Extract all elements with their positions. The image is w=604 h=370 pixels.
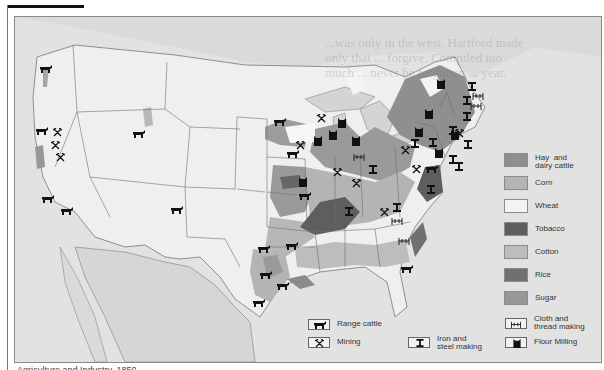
cattle-icon [400, 265, 414, 274]
flour-mill-icon [314, 136, 322, 146]
legend-label: Mining [337, 338, 361, 346]
legend-label: Sugar [535, 294, 556, 302]
mining-icon [401, 146, 410, 155]
cattle-icon [313, 321, 327, 330]
iron-steel-icon [463, 112, 471, 121]
flour-mill-icon [415, 127, 423, 137]
flour-mill-icon [513, 339, 521, 348]
cattle-icon [273, 118, 287, 127]
cattle-icon [41, 195, 55, 204]
legend-label: Hay and dairy cattle [535, 154, 574, 170]
sugar-swatch [504, 291, 528, 305]
cloth-thread-icon [398, 236, 410, 246]
legend-item-hay-dairy: Hay and dairy cattle [504, 153, 584, 176]
flour-mill-icon [352, 136, 360, 146]
flour-mill-icon [338, 118, 346, 128]
cattle-icon [132, 130, 146, 139]
flour-mill-icon [451, 130, 459, 140]
crop-legend: Hay and dairy cattle Corn Wheat Tobacco … [504, 153, 584, 314]
legend-label: Flour Milling [534, 338, 577, 346]
legend-label: Tobacco [535, 225, 565, 233]
flour-mill-icon [299, 177, 307, 187]
map-caption: Agriculture and Industry, 1850 [17, 364, 136, 370]
legend-item-wheat: Wheat [504, 199, 584, 222]
legend-label: Corn [535, 179, 552, 187]
flour-mill-icon [329, 130, 337, 140]
cattle-icon [170, 206, 184, 215]
cloth-thread-icon [472, 91, 484, 101]
flour-mill-icon [437, 79, 445, 89]
mining-icon [296, 141, 305, 150]
cattle-icon [285, 242, 299, 251]
iron-steel-icon [369, 165, 377, 174]
hay-dairy-swatch [504, 153, 528, 167]
legend-item-corn: Corn [504, 176, 584, 199]
us-agriculture-industry-map: ...was only in the west. Hartford made o… [14, 16, 602, 363]
cattle-icon [252, 299, 266, 308]
iron-steel-icon [449, 155, 457, 164]
iron-steel-icon [411, 139, 419, 148]
iron-steel-icon [416, 339, 424, 347]
iron-steel-icon [427, 185, 435, 194]
cloth-thread-icon [470, 101, 482, 111]
cattle-icon [425, 165, 439, 174]
iron-steel-icon [429, 138, 437, 147]
cloth-thread-legend-box [505, 318, 527, 329]
cotton-swatch [504, 245, 528, 259]
cattle-icon [298, 192, 312, 201]
legend-label: Iron and steel making [437, 335, 482, 351]
legend-label: Cotton [535, 248, 559, 256]
legend-item-sugar: Sugar [504, 291, 584, 314]
cloth-thread-icon [353, 152, 365, 162]
cloth-thread-icon [510, 320, 522, 329]
iron-steel-icon [345, 207, 353, 216]
legend-label: Wheat [535, 202, 558, 210]
iron-steel-icon [393, 203, 401, 212]
cattle-icon [276, 282, 290, 291]
iron-steel-icon [464, 140, 472, 149]
mining-icon [333, 168, 342, 177]
cattle-icon [39, 65, 53, 74]
mining-icon [380, 208, 389, 217]
top-rule [7, 5, 84, 8]
legend-label: Cloth and thread making [534, 315, 585, 331]
legend-item-cotton: Cotton [504, 245, 584, 268]
mining-icon [317, 114, 326, 123]
cattle-icon [259, 271, 273, 280]
cattle-icon [35, 127, 49, 136]
rice-swatch [504, 268, 528, 282]
legend-item-rice: Rice [504, 268, 584, 291]
cattle-icon [286, 150, 300, 159]
range-cattle-legend-box [308, 319, 330, 330]
mining-icon [315, 339, 324, 348]
cloth-thread-icon [391, 216, 403, 226]
mining-icon [51, 141, 60, 150]
mining-legend-box [308, 337, 330, 348]
legend-item-tobacco: Tobacco [504, 222, 584, 245]
flour-mill-icon [435, 148, 443, 158]
cattle-icon [60, 207, 74, 216]
iron-steel-legend-box [408, 337, 430, 348]
legend-label: Range cattle [337, 320, 382, 328]
iron-steel-icon [468, 82, 476, 91]
legend-label: Rice [535, 271, 551, 279]
corn-swatch [504, 176, 528, 190]
wheat-swatch [504, 199, 528, 213]
mining-icon [56, 153, 65, 162]
flour-mill-legend-box [505, 337, 527, 348]
flour-mill-icon [425, 109, 433, 119]
mining-icon [53, 128, 62, 137]
mining-icon [412, 165, 421, 174]
mining-icon [352, 179, 361, 188]
left-margin-rule [7, 5, 8, 370]
cattle-icon [257, 245, 271, 254]
tobacco-swatch [504, 222, 528, 236]
